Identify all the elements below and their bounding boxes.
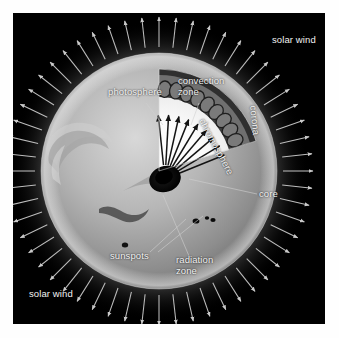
diagram-artwork [13,13,325,324]
label-sunspots: sunspots [110,251,149,262]
label-corona: corona [248,105,262,136]
label-core: core [259,189,278,200]
label-convection-zone-line1: convection [178,76,224,87]
label-solar-wind-top: solar wind [272,35,316,46]
label-solar-wind-bottom: solar wind [29,289,73,300]
figure-frame: solar wind solar wind photosphere convec… [0,0,339,338]
label-photosphere: photosphere [108,87,162,98]
label-convection-zone-line2: zone [178,87,199,98]
label-radiation-zone-line1: radiation [176,255,213,266]
diagram-plate: solar wind solar wind photosphere convec… [13,13,325,324]
label-radiation-zone-line2: zone [176,266,197,277]
